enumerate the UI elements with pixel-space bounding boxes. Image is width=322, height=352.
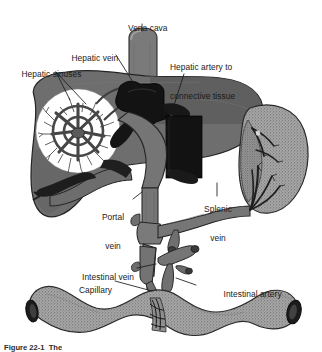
label-capillary-line1: Capillary [79, 285, 112, 295]
figure-container: Vena cava Hepatic vein Hepatic sinuses H… [0, 0, 322, 352]
label-portal-vein: Portal vein [92, 194, 134, 271]
label-intestinal-artery: Intestinal artery [214, 280, 282, 309]
figure-caption: Figure 22-1 The [4, 343, 62, 352]
label-vena-cava-line1: Vena cava [128, 23, 168, 33]
label-splenic-vein-line2: vein [196, 234, 240, 244]
label-splenic-vein: Splenic vein [196, 186, 240, 263]
label-hepatic-artery: Hepatic artery to connective tissue [170, 44, 235, 121]
label-hepatic-sinuses-line1: Hepatic sinuses [22, 69, 82, 79]
label-hepatic-sinuses: Hepatic sinuses [12, 60, 81, 89]
label-intestinal-artery-line1: Intestinal artery [224, 289, 282, 299]
label-hepatic-artery-line2: connective tissue [170, 92, 235, 102]
label-hepatic-artery-line1: Hepatic artery to [170, 63, 235, 73]
label-vena-cava: Vena cava [108, 14, 178, 43]
leader-intestinal-artery [176, 278, 196, 285]
leader-portal-vein [133, 192, 142, 199]
label-portal-vein-line2: vein [92, 242, 134, 252]
label-splenic-vein-line1: Splenic [196, 205, 240, 215]
label-capillary: Capillary [58, 276, 112, 305]
gallbladder [166, 116, 202, 184]
label-portal-vein-line1: Portal [92, 213, 134, 223]
spleen [239, 105, 308, 213]
